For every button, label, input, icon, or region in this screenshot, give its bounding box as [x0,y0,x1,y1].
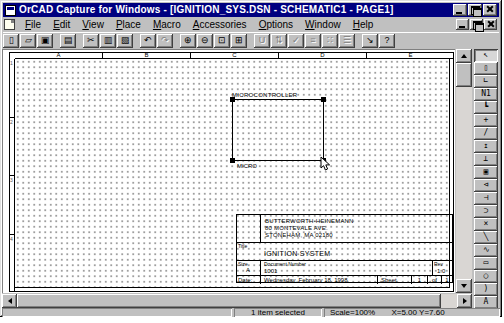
mdi-child-controls [456,19,497,30]
scroll-left-button[interactable] [2,294,17,308]
menu-file[interactable]: File [19,18,47,31]
toolbar: ▯ ▱ ▣ ▤ ✂ ▥ ▧ ↶ ↷ ⊕ ⊖ ⊡ ⊞ U ⇅ ✓ ≡ ∷ ☰ ↘ … [3,32,499,49]
component-reference-label[interactable]: MICRO [237,163,257,169]
annotate-button[interactable]: U [254,34,270,48]
cut-button[interactable]: ✂ [83,34,99,48]
zoom-out-button[interactable]: ⊖ [197,34,213,48]
menu-accessories[interactable]: Accessories [187,18,253,31]
place-ellipse-tool[interactable]: ○ [474,270,498,283]
selection-handle[interactable] [230,158,235,163]
rev-value: 1.0 [437,268,445,274]
menu-window[interactable]: Window [299,18,347,31]
schematic-canvas[interactable]: A B C D E 1 2 3 4 MICROCONTROLLER MICRO [2,49,455,293]
mdi-minimize-icon[interactable] [456,19,469,30]
place-bus-tool[interactable]: ┗ [474,101,498,114]
place-power-tool[interactable]: ↥ [474,140,498,153]
paste-button[interactable]: ▧ [117,34,133,48]
selection-handle[interactable] [321,97,326,102]
menu-view[interactable]: View [76,18,110,31]
place-off-page-connector-tool[interactable]: ⊃ [474,205,498,218]
place-no-connect-tool[interactable]: × [474,218,498,231]
document-icon[interactable] [4,19,15,30]
close-icon[interactable] [483,4,497,16]
place-net-alias-tool[interactable]: N1 [474,88,498,101]
vertical-scroll-thumb[interactable] [456,63,472,87]
help-button[interactable]: ? [379,34,395,48]
up-arrow-icon [461,51,467,58]
cross-reference-button[interactable]: ∷ [322,34,338,48]
document-number-cell: Document Number 1001 [261,261,432,275]
back-annotate-button[interactable]: ⇅ [271,34,287,48]
sheet-total: 1 [441,276,452,284]
undo-button[interactable]: ↶ [140,34,156,48]
mdi-close-icon[interactable] [484,19,497,30]
place-bus-entry-tool[interactable]: / [474,127,498,140]
menu-macro[interactable]: Macro [147,18,187,31]
sheet-number: 1 [411,276,427,284]
schematic-tool-palette: ↖ ▯ ∟ N1 ┗ + / ↥ ⊥ ▣ ⊲ ⊣ ⊃ × ╲ ∿ ▭ ○ ) A [474,49,500,311]
vertical-scrollbar[interactable] [456,49,472,293]
mdi-restore-icon[interactable] [470,19,483,30]
menu-place[interactable]: Place [110,18,147,31]
zoom-all-button[interactable]: ⊞ [231,34,247,48]
document-number-label: Document Number [264,261,306,267]
place-hierarchical-port-tool[interactable]: ⊲ [474,179,498,192]
title-label: Title [238,243,247,249]
selected-block[interactable] [232,99,324,161]
bill-of-materials-button[interactable]: ☰ [339,34,355,48]
zone-letter: A [15,52,103,58]
zoom-area-button[interactable]: ⊡ [214,34,230,48]
selection-handle[interactable] [230,97,235,102]
place-arc-tool[interactable]: ) [474,283,498,296]
company-line: BUTTERWORTH-HEINEMANN [265,218,354,225]
zone-letter: D [279,52,367,58]
place-rectangle-tool[interactable]: ▭ [474,257,498,270]
select-tool[interactable]: ↖ [474,49,498,62]
place-wire-tool[interactable]: ∟ [474,75,498,88]
horizontal-scroll-thumb[interactable] [17,294,441,308]
rev-label: Rev [434,261,443,267]
sheet-zone-header: A B C D E [15,52,454,59]
design-rules-check-button[interactable]: ✓ [288,34,304,48]
place-part-tool[interactable]: ▯ [474,62,498,75]
restore-icon[interactable] [468,4,482,16]
scroll-up-button[interactable] [456,49,472,63]
copy-button[interactable]: ▥ [100,34,116,48]
app-icon[interactable] [5,5,16,16]
save-button[interactable]: ▣ [37,34,53,48]
status-bar: 1 item selected Scale=100% X=5.00 Y=7.60 [2,308,500,317]
place-ground-tool[interactable]: ⊥ [474,153,498,166]
place-hierarchical-block-tool[interactable]: ▣ [474,166,498,179]
redo-button[interactable]: ↷ [157,34,173,48]
title-block: BUTTERWORTH-HEINEMANN 80 MONTEVALE AVE. … [236,214,453,283]
open-button[interactable]: ▱ [20,34,36,48]
title-bar[interactable]: OrCAD Capture for Windows - [IGNITION_SY… [3,3,499,17]
place-hierarchical-pin-tool[interactable]: ⊣ [474,192,498,205]
place-line-tool[interactable]: ╲ [474,231,498,244]
company-line: 80 MONTEVALE AVE. [265,225,354,232]
size-value: A [246,267,250,273]
menu-options[interactable]: Options [253,18,299,31]
company-line: STONEHAM, MA 02180 [265,232,354,239]
design-title: IGNITION SYSTEM [264,250,330,257]
menu-help[interactable]: Help [347,18,380,31]
sheet-of-label: of [427,276,441,284]
minimize-icon[interactable] [453,4,467,16]
new-button[interactable]: ▯ [3,34,19,48]
place-polyline-tool[interactable]: ∿ [474,244,498,257]
zoom-in-button[interactable]: ⊕ [180,34,196,48]
zone-letter: C [191,52,279,58]
snap-to-grid-button[interactable]: ↘ [362,34,378,48]
place-junction-tool[interactable]: + [474,114,498,127]
window-controls [453,4,497,16]
sheet-label: Sheet [377,276,411,284]
component-name-label[interactable]: MICROCONTROLLER [232,92,298,98]
scroll-right-button[interactable] [457,294,472,308]
menu-bar: File Edit View Place Macro Accessories O… [3,18,499,31]
create-netlist-button[interactable]: ≡ [305,34,321,48]
menu-edit[interactable]: Edit [47,18,76,31]
scroll-down-button[interactable] [456,279,472,293]
menu-items: File Edit View Place Macro Accessories O… [19,18,456,31]
horizontal-scrollbar[interactable] [2,294,472,308]
print-button[interactable]: ▤ [60,34,76,48]
